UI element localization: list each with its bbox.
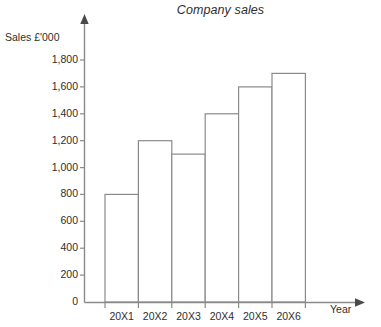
y-tick-label: 0 (22, 295, 78, 307)
bar-20X1[interactable] (105, 194, 138, 302)
bar-20X4[interactable] (205, 114, 238, 302)
bars-group (105, 73, 305, 302)
y-tick-label: 200 (22, 268, 78, 280)
y-tick-label: 400 (22, 241, 78, 253)
y-tick-label: 1,000 (22, 161, 78, 173)
y-tick-label: 800 (22, 187, 78, 199)
bar-20X3[interactable] (172, 154, 205, 302)
x-axis-arrow-icon (355, 298, 365, 306)
y-tick-label: 1,200 (22, 134, 78, 146)
bar-20X2[interactable] (138, 141, 171, 302)
y-tick-label: 1,400 (22, 107, 78, 119)
bar-20X6[interactable] (272, 73, 305, 302)
bar-chart: Company sales Sales £'000 Year 020040060… (0, 0, 381, 327)
x-tick-label-20X6: 20X6 (269, 310, 309, 322)
y-axis-arrow-icon (80, 14, 88, 24)
y-tick-label: 1,600 (22, 80, 78, 92)
y-tick-label: 600 (22, 214, 78, 226)
bar-20X5[interactable] (239, 87, 272, 302)
y-tick-label: 1,800 (22, 53, 78, 65)
